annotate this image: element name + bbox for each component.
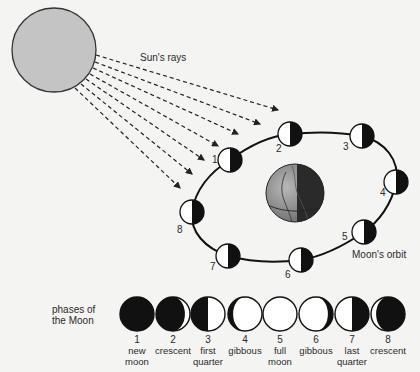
moon-phases-diagram: Sun's rays Moon's orbit 12345678 phases … [0, 0, 420, 372]
phase-name-line1: crescent [370, 345, 406, 356]
phase-name-line1: crescent [155, 345, 191, 356]
phase-name-line2: moon [125, 356, 149, 367]
orbit-moon-4: 4 [380, 170, 408, 198]
phase-first-quarter: 3firstquarter [191, 297, 225, 367]
orbit-moon-number: 2 [276, 143, 282, 154]
phase-name-line2: moon [268, 356, 292, 367]
phase-name-line2: quarter [337, 356, 367, 367]
orbit-moon-6: 6 [285, 248, 313, 280]
orbit-moon-number: 8 [177, 224, 183, 235]
phase-waning-gibbous: 6gibbous [299, 297, 333, 356]
phase-number: 6 [313, 334, 319, 345]
phase-name-line2: quarter [193, 356, 223, 367]
phase-number: 5 [277, 334, 283, 345]
orbit-moon-number: 4 [380, 187, 386, 198]
phase-last-quarter: 7lastquarter [335, 297, 369, 367]
sun [12, 8, 96, 92]
phase-full: 5fullmoon [263, 297, 297, 367]
phase-number: 4 [242, 334, 248, 345]
phase-number: 1 [134, 334, 140, 345]
orbit-moon-5: 5 [342, 220, 376, 244]
moon-orbit-label: Moon's orbit [352, 249, 406, 260]
orbit-moon-number: 3 [343, 141, 349, 152]
phase-name-line1: gibbous [228, 345, 262, 356]
phases-row: 1newmoon2crescent3firstquarter4gibbous5f… [120, 297, 406, 367]
orbit-moon-number: 1 [212, 154, 218, 165]
orbit-moon-number: 5 [342, 231, 348, 242]
phase-name-line1: new [128, 345, 146, 356]
phase-name-line1: last [345, 345, 360, 356]
orbit-moon-number: 7 [210, 261, 216, 272]
phase-waxing-gibbous: 4gibbous [228, 297, 262, 356]
phase-waxing-crescent: 2crescent [155, 297, 191, 356]
earth [266, 160, 327, 226]
phase-waning-crescent: 8crescent [370, 297, 406, 356]
phases-label: phases of the Moon [52, 304, 98, 326]
orbit-moon-number: 6 [285, 269, 291, 280]
phase-number: 7 [349, 334, 355, 345]
sun-rays-label: Sun's rays [140, 52, 186, 63]
phase-name-line1: full [274, 345, 286, 356]
phase-number: 3 [205, 334, 211, 345]
orbit-moon-7: 7 [210, 244, 240, 272]
orbit-moon-8: 8 [177, 200, 204, 235]
phase-new: 1newmoon [120, 297, 154, 367]
orbit-moon-2: 2 [276, 122, 302, 154]
phase-number: 2 [170, 334, 176, 345]
phase-number: 8 [385, 334, 391, 345]
phase-name-line1: gibbous [299, 345, 333, 356]
orbit-moon-3: 3 [343, 124, 374, 152]
sun-rays [75, 55, 278, 188]
phase-name-line1: first [200, 345, 216, 356]
